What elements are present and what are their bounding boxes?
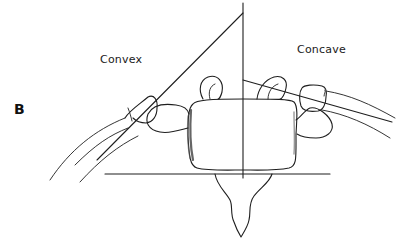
left-facet bbox=[200, 76, 222, 99]
concave-label: Concave bbox=[297, 43, 346, 56]
vertebra-diagram bbox=[0, 0, 419, 245]
convex-label: Convex bbox=[100, 53, 142, 66]
diagram-canvas: B Convex Concave bbox=[0, 0, 419, 245]
concave-angle-line bbox=[243, 80, 392, 122]
convex-instrument bbox=[50, 96, 157, 182]
concave-instrument bbox=[300, 85, 395, 138]
panel-letter: B bbox=[14, 101, 25, 117]
vertebral-body bbox=[188, 99, 297, 170]
right-transverse-process bbox=[296, 108, 332, 138]
spinous-process bbox=[215, 174, 272, 237]
convex-angle-line bbox=[97, 13, 243, 160]
